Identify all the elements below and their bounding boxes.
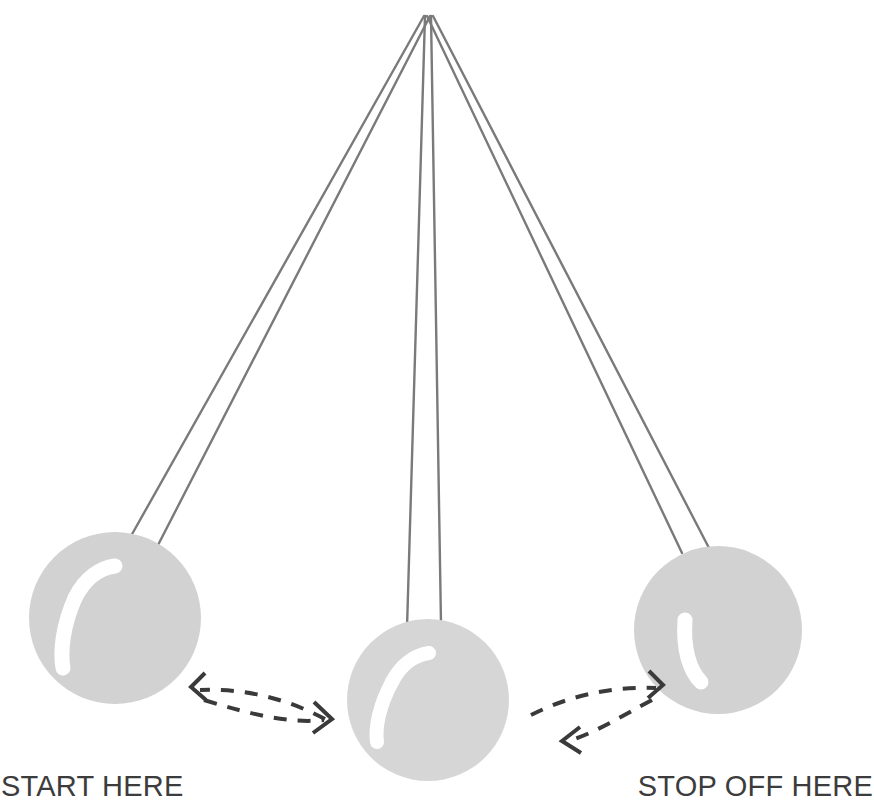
arrow-left-upper-head-icon	[191, 673, 206, 700]
left-arrow-group	[191, 673, 332, 733]
string-right-inner	[427, 16, 682, 553]
arrow-right-upper-curve	[531, 688, 656, 715]
string-left-outer	[131, 16, 424, 536]
right-arrow-group	[531, 671, 663, 753]
string-middle-right	[431, 16, 441, 624]
middle-pendulum-ball	[347, 619, 509, 781]
arrow-right-lower-curve	[572, 700, 652, 740]
left-pendulum-ball	[29, 532, 201, 704]
middle-ball-body	[347, 619, 509, 781]
arrow-right-lower-head-icon	[562, 727, 581, 753]
stop-off-here-label: STOP OFF HERE	[638, 772, 873, 801]
pendulum-strings-group	[131, 16, 709, 628]
string-right-outer	[433, 16, 709, 548]
start-here-label: START HERE	[1, 772, 184, 801]
pendulum-diagram-stage: START HERE STOP OFF HERE	[0, 0, 874, 803]
pendulum-illustration	[0, 0, 874, 803]
string-left-inner	[157, 16, 430, 547]
left-ball-body	[29, 532, 201, 704]
string-middle-left	[407, 16, 425, 628]
arrow-left-lower-curve	[204, 700, 324, 721]
